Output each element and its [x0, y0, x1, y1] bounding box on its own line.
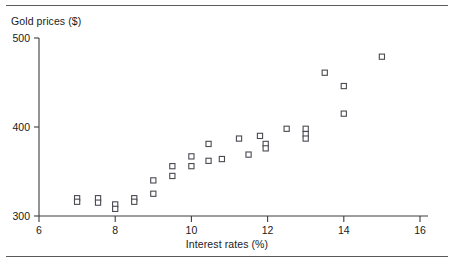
- scatter-plot-canvas: 3004005006810121416: [0, 0, 454, 270]
- scatter-point-marker: [170, 173, 175, 178]
- scatter-point-marker: [246, 152, 251, 157]
- x-tick-label: 8: [112, 224, 118, 236]
- scatter-point-marker: [206, 141, 211, 146]
- scatter-point-marker: [303, 126, 308, 131]
- scatter-point-marker: [189, 154, 194, 159]
- scatter-point-marker: [379, 54, 384, 59]
- y-tick-label: 400: [12, 121, 30, 133]
- scatter-point-marker: [206, 158, 211, 163]
- scatter-point-marker: [284, 126, 289, 131]
- y-tick-label: 300: [12, 210, 30, 222]
- scatter-point-marker: [236, 136, 241, 141]
- x-axis-title: Interest rates (%): [0, 238, 454, 250]
- scatter-point-marker: [75, 199, 80, 204]
- scatter-point-marker: [189, 164, 194, 169]
- scatter-point-marker: [219, 156, 224, 161]
- scatter-point-marker: [170, 164, 175, 169]
- y-tick-label: 500: [12, 32, 30, 44]
- scatter-point-marker: [95, 200, 100, 205]
- scatter-point-marker: [341, 111, 346, 116]
- x-tick-label: 14: [338, 224, 350, 236]
- scatter-point-marker: [151, 178, 156, 183]
- scatter-point-marker: [303, 136, 308, 141]
- x-tick-label: 12: [262, 224, 274, 236]
- scatter-point-marker: [151, 191, 156, 196]
- x-tick-label: 16: [414, 224, 426, 236]
- chart-figure: Gold prices ($) 3004005006810121416 Inte…: [0, 0, 454, 270]
- scatter-point-marker: [263, 146, 268, 151]
- scatter-point-marker: [341, 83, 346, 88]
- scatter-point-marker: [257, 133, 262, 138]
- x-tick-label: 6: [36, 224, 42, 236]
- x-tick-label: 10: [186, 224, 198, 236]
- bottom-divider-rule: [6, 256, 448, 257]
- scatter-point-marker: [113, 206, 118, 211]
- scatter-point-marker: [132, 199, 137, 204]
- scatter-point-marker: [322, 70, 327, 75]
